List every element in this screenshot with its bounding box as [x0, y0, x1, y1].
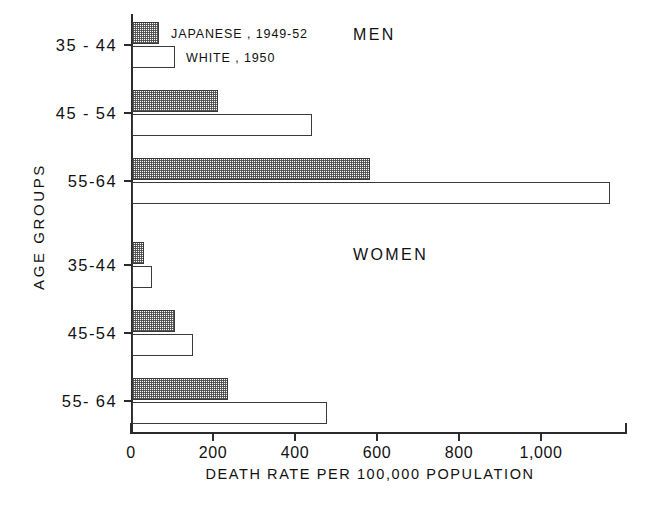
y-tick: [124, 180, 132, 182]
bar-men-35-44-white: [132, 46, 175, 68]
x-tick-label-1,000: 1,000: [519, 444, 562, 462]
x-axis-title: DEATH RATE PER 100,000 POPULATION: [110, 466, 630, 482]
legend-label-white: WHITE , 1950: [186, 51, 275, 65]
y-tick: [124, 332, 132, 334]
y-tick: [124, 400, 132, 402]
bar-men-35-44-japanese: [132, 22, 159, 44]
bar-women-45-54-white: [132, 334, 193, 356]
x-axis-end-cap: [625, 423, 627, 434]
bar-women-55-64-japanese: [132, 378, 228, 400]
x-tick-label-200: 200: [199, 444, 228, 462]
x-tick-200: [212, 432, 214, 441]
category-label-men-55-64: 55-64: [68, 172, 117, 191]
category-label-men-45-54: 45 - 54: [56, 104, 117, 123]
bar-women-45-54-japanese: [132, 310, 175, 332]
x-tick-label-0: 0: [126, 444, 136, 462]
bar-men-45-54-white: [132, 114, 312, 136]
x-tick-400: [294, 432, 296, 441]
panel-title-men: MEN: [353, 26, 396, 44]
x-tick-1,000: [540, 432, 542, 441]
category-label-women-35-44: 35-44: [68, 256, 117, 275]
category-label-women-45-54: 45-54: [68, 324, 117, 343]
plot-area: 02004006008001,000 35 - 4445 - 5455-6435…: [131, 14, 627, 432]
x-tick-label-400: 400: [281, 444, 310, 462]
x-tick-800: [458, 432, 460, 441]
x-tick-0: [130, 423, 132, 434]
y-axis-line: [131, 14, 133, 432]
x-tick-600: [376, 432, 378, 441]
panel-title-women: WOMEN: [353, 246, 428, 264]
legend-label-japanese: JAPANESE , 1949-52: [171, 27, 308, 41]
y-tick: [124, 264, 132, 266]
x-axis-line: [131, 432, 627, 434]
bar-men-55-64-white: [132, 182, 610, 204]
bar-men-55-64-japanese: [132, 158, 370, 180]
category-label-women-55-64: 55- 64: [62, 392, 117, 411]
bar-men-45-54-japanese: [132, 90, 218, 112]
chart-figure: AGE GROUPS DEATH RATE PER 100,000 POPULA…: [0, 0, 651, 508]
y-tick: [124, 112, 132, 114]
x-tick-label-800: 800: [445, 444, 474, 462]
bar-women-35-44-japanese: [132, 242, 144, 264]
category-label-men-35-44: 35 - 44: [56, 36, 117, 55]
bar-women-35-44-white: [132, 266, 152, 288]
bar-women-55-64-white: [132, 402, 327, 424]
x-tick-label-600: 600: [363, 444, 392, 462]
y-axis-title: AGE GROUPS: [30, 97, 47, 357]
y-tick: [124, 44, 132, 46]
